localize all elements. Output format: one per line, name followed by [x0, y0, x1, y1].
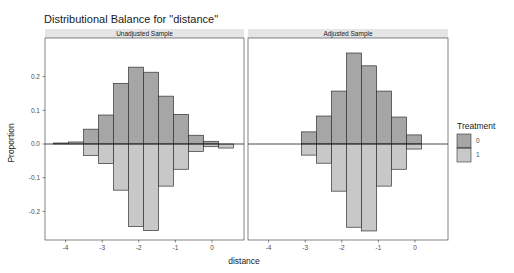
x-tick-label: -4 — [63, 244, 69, 251]
bar-treatment-1 — [144, 144, 159, 231]
bar-treatment-1 — [302, 144, 317, 155]
x-tick-label: -4 — [266, 244, 272, 251]
bar-treatment-1 — [174, 144, 189, 169]
x-axis-title: distance — [228, 256, 260, 266]
bar-treatment-0 — [407, 135, 422, 144]
legend-label-1: 1 — [476, 151, 480, 158]
bar-treatment-1 — [347, 144, 362, 227]
bar-treatment-0 — [347, 53, 362, 144]
bar-treatment-0 — [302, 132, 317, 144]
bar-treatment-0 — [144, 72, 159, 144]
bar-treatment-0 — [99, 115, 114, 144]
y-tick-label: 0.1 — [31, 107, 40, 114]
bar-treatment-1 — [159, 144, 174, 186]
bar-treatment-0 — [317, 116, 332, 144]
legend-label-0: 0 — [476, 137, 480, 144]
bar-treatment-1 — [392, 144, 407, 169]
bar-treatment-1 — [407, 144, 422, 149]
bar-treatment-0 — [362, 66, 377, 144]
facet-strip-label: Adjusted Sample — [323, 30, 373, 38]
x-tick-label: -3 — [99, 244, 105, 251]
bar-treatment-0 — [392, 117, 407, 144]
bar-treatment-1 — [129, 144, 144, 227]
x-tick-label: -1 — [173, 244, 179, 251]
bar-treatment-1 — [84, 144, 99, 155]
x-tick-label: -1 — [376, 244, 382, 251]
bar-treatment-1 — [362, 144, 377, 231]
legend-title: Treatment — [457, 121, 496, 131]
faceted-histogram-chart: Proportion distance Unadjusted Sample-4-… — [0, 0, 514, 273]
legend-key-1 — [457, 148, 471, 162]
panel-adjusted: Adjusted Sample-4-3-2-10 — [248, 29, 448, 251]
y-tick-label: -0.2 — [29, 208, 41, 215]
bar-treatment-1 — [99, 144, 114, 164]
bar-treatment-0 — [114, 83, 129, 144]
x-tick-label: 0 — [210, 244, 214, 251]
x-tick-label: -2 — [136, 244, 142, 251]
panel-unadjusted: Unadjusted Sample-4-3-2-10 — [45, 29, 244, 251]
bar-treatment-0 — [159, 96, 174, 144]
bar-treatment-1 — [219, 144, 234, 148]
y-tick-label: 0.0 — [31, 140, 40, 147]
bar-treatment-1 — [317, 144, 332, 163]
bar-treatment-1 — [332, 144, 347, 191]
y-tick-label: -0.1 — [29, 174, 41, 181]
y-axis-title: Proportion — [6, 123, 16, 162]
x-tick-label: -3 — [302, 244, 308, 251]
bar-treatment-1 — [377, 144, 392, 186]
bar-treatment-1 — [204, 144, 219, 147]
bar-treatment-1 — [189, 144, 204, 151]
bar-treatment-0 — [377, 91, 392, 144]
bar-treatment-0 — [189, 135, 204, 144]
facet-strip-label: Unadjusted Sample — [116, 30, 173, 38]
bar-treatment-0 — [204, 141, 219, 144]
bar-treatment-1 — [114, 144, 129, 190]
x-tick-label: 0 — [413, 244, 417, 251]
bar-treatment-0 — [84, 129, 99, 144]
bar-treatment-0 — [174, 114, 189, 144]
legend-key-0 — [457, 134, 471, 148]
y-tick-label: 0.2 — [31, 73, 40, 80]
bar-treatment-0 — [332, 91, 347, 144]
legend: Treatment 0 1 — [457, 121, 496, 162]
bar-treatment-0 — [129, 67, 144, 144]
x-tick-label: -2 — [339, 244, 345, 251]
